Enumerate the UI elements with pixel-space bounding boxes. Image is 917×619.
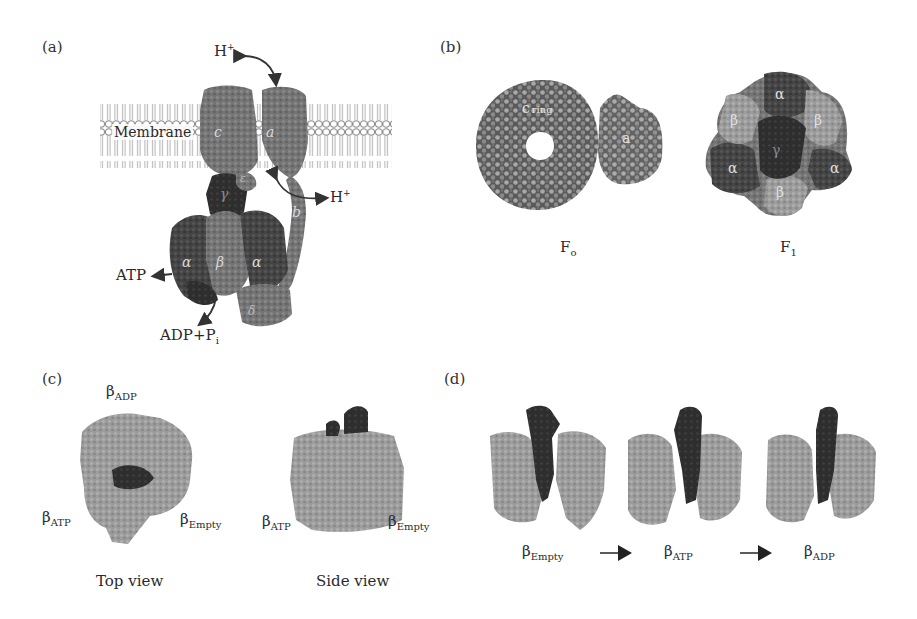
alpha-left-label: α	[182, 254, 191, 270]
f1-alpha-right-label: α	[830, 160, 839, 176]
gamma-subunit-label: γ	[220, 186, 228, 202]
delta-subunit	[236, 284, 292, 326]
f1-beta-bottom-label: β	[776, 184, 784, 200]
f1-gamma-label: γ	[772, 142, 780, 158]
top-view-beta-empty: βEmpty	[180, 510, 222, 530]
proton-in-label: H+	[214, 42, 235, 60]
transition-arrow-2-head	[758, 545, 772, 561]
state-beta-adp: βADP	[804, 542, 835, 562]
panel-c-label: (c)	[42, 370, 62, 388]
atp-arrow	[154, 274, 172, 276]
side-view-beta-empty: βEmpty	[388, 512, 430, 532]
empty-state-right-lobe	[556, 431, 606, 530]
adp-state-left-lobe	[766, 435, 814, 523]
delta-subunit-label: δ	[248, 304, 255, 318]
f1-gamma-center	[758, 116, 806, 179]
f1-alpha-left-label: α	[728, 160, 737, 176]
fo-ring-label: cring	[522, 100, 553, 116]
fo-a-label: a	[622, 130, 630, 146]
c-subunit-label: c	[214, 124, 222, 140]
epsilon-subunit-label: ε	[240, 172, 246, 185]
c-ring-subunit	[200, 86, 258, 177]
alpha-right-label: α	[252, 254, 261, 270]
f1-side-view	[290, 429, 404, 531]
top-view-beta-adp: βADP	[106, 382, 137, 402]
f1-beta-right	[804, 90, 842, 146]
fo-caption: Fo	[560, 238, 576, 258]
state-beta-empty: βEmpty	[522, 542, 564, 562]
atp-label: ATP	[116, 266, 146, 284]
membrane-label: Membrane	[112, 124, 193, 140]
panel-b-graphic	[476, 72, 852, 216]
side-view-caption: Side view	[316, 572, 389, 590]
atp-state-left-lobe	[628, 434, 676, 525]
top-view-caption: Top view	[96, 572, 163, 590]
f1-beta-bottom	[764, 175, 808, 216]
top-view-beta-atp: βATP	[42, 508, 71, 528]
f1-alpha-top-label: α	[775, 86, 784, 102]
panel-d-label: (d)	[444, 370, 465, 388]
f1-beta-right-label: β	[814, 112, 822, 128]
panel-c-graphic	[80, 406, 404, 544]
state-beta-atp: βATP	[664, 542, 693, 562]
side-view-gamma-small	[326, 421, 340, 436]
f1-caption: F1	[780, 238, 797, 258]
beta-label: β	[216, 254, 224, 270]
adp-pi-label: ADP+Pi	[160, 326, 219, 346]
atp-state-right-lobe	[694, 434, 742, 521]
f1-beta-left-label: β	[730, 112, 738, 128]
side-view-beta-atp: βATP	[262, 512, 291, 532]
proton-out-label: H+	[330, 188, 351, 206]
panel-b-label: (b)	[440, 38, 461, 56]
transition-arrow-1-head	[618, 545, 632, 561]
panel-d-graphic	[490, 406, 876, 561]
panel-a-label: (a)	[42, 38, 63, 56]
proton-in-arrow	[244, 56, 276, 84]
side-view-gamma-top	[344, 406, 368, 434]
b-subunit-label: b	[292, 204, 301, 220]
a-subunit-label: a	[266, 124, 274, 140]
